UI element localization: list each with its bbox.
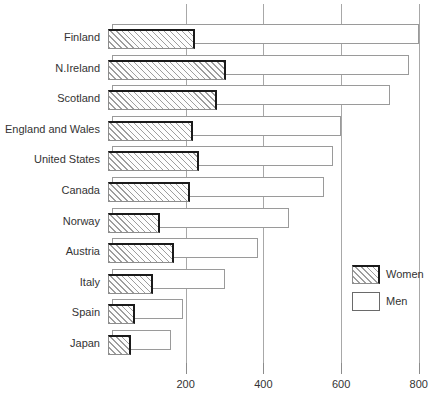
bar-women	[108, 243, 174, 263]
bar-women	[108, 213, 160, 233]
tick-label-800: 800	[394, 378, 430, 390]
bar-row	[108, 55, 411, 81]
legend-item-women: Women	[352, 265, 430, 287]
tick-label-200: 200	[161, 378, 211, 390]
bar-row	[108, 116, 343, 142]
category-label-finland: Finland	[64, 31, 100, 43]
bar-row	[108, 238, 260, 264]
legend-swatch-men	[352, 292, 380, 311]
tick-mark-200	[186, 363, 187, 374]
category-label-italy: Italy	[80, 276, 100, 288]
category-label-england-and-wales: England and Wales	[5, 123, 100, 135]
bar-row	[108, 269, 227, 295]
category-label-scotland: Scotland	[57, 92, 100, 104]
legend-label-men: Men	[386, 295, 407, 308]
category-label-united-states: United States	[34, 153, 100, 165]
tick-label-400: 400	[238, 378, 288, 390]
bar-chart: FinlandN.IrelandScotlandEngland and Wale…	[0, 0, 430, 398]
bar-row	[108, 146, 335, 172]
bar-women	[108, 304, 135, 324]
tick-mark-800	[419, 363, 420, 374]
category-label-austria: Austria	[66, 245, 100, 257]
tick-label-600: 600	[316, 378, 366, 390]
legend-swatch-women	[352, 265, 380, 284]
tick-mark-600	[341, 363, 342, 374]
legend-item-men: Men	[352, 292, 430, 314]
category-label-japan: Japan	[70, 337, 100, 349]
bar-women	[108, 274, 153, 294]
bar-women	[108, 60, 226, 80]
bar-row	[108, 299, 185, 325]
bar-women	[108, 151, 199, 171]
tick-mark-400	[263, 363, 264, 374]
category-label-norway: Norway	[63, 215, 100, 227]
bar-women	[108, 90, 217, 110]
legend-label-women: Women	[386, 268, 424, 281]
bar-row	[108, 85, 392, 111]
plot-area: FinlandN.IrelandScotlandEngland and Wale…	[0, 0, 430, 398]
bar-women	[108, 335, 131, 355]
bar-row	[108, 208, 291, 234]
category-label-spain: Spain	[72, 306, 100, 318]
bar-women	[108, 121, 193, 141]
category-label-canada: Canada	[61, 184, 100, 196]
bar-row	[108, 330, 173, 356]
bar-women	[108, 29, 195, 49]
bar-row	[108, 24, 421, 50]
bar-women	[108, 182, 190, 202]
bar-row	[108, 177, 326, 203]
category-label-n-ireland: N.Ireland	[55, 62, 100, 74]
